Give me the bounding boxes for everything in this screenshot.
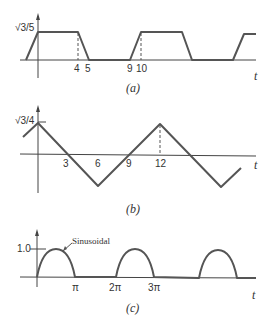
figure: √3/5 4 5 9 10 t (a) √3/4 3 6 9 12 t (b) … — [0, 0, 269, 316]
xtick-pi: π — [72, 282, 79, 293]
xtick-3pi: 3π — [148, 282, 161, 293]
ytick-sqrt3-5: √3/5 — [15, 22, 35, 33]
panel-b: √3/4 3 6 9 12 t (b) — [15, 105, 258, 216]
x-axis-label: t — [252, 288, 256, 302]
xtick-6: 6 — [95, 158, 101, 169]
x-axis — [20, 154, 256, 156]
xtick-12: 12 — [155, 158, 167, 169]
xtick-9: 9 — [126, 158, 132, 169]
caption-c: (c) — [126, 301, 139, 315]
xtick-2pi: 2π — [109, 282, 122, 293]
y-axis-arrow-icon — [35, 229, 39, 236]
rectified-sine-waveform — [37, 249, 256, 278]
x-axis-label: t — [254, 158, 258, 172]
xtick-3: 3 — [63, 158, 69, 169]
ytick-sqrt3-4: √3/4 — [15, 115, 35, 126]
ytick-1.0: 1.0 — [17, 243, 31, 254]
xtick-5: 5 — [85, 63, 91, 74]
annotation-sinusoidal: Sinusoidal — [72, 236, 111, 246]
caption-b: (b) — [126, 202, 140, 216]
panel-a: √3/5 4 5 9 10 t (a) — [15, 13, 258, 95]
x-axis-label: t — [254, 69, 258, 83]
y-axis-arrow-icon — [36, 105, 40, 112]
y-axis-arrow-icon — [36, 13, 40, 20]
caption-a: (a) — [126, 81, 140, 95]
panel-c: Sinusoidal 1.0 π 2π 3π t (c) — [17, 229, 256, 315]
xtick-9: 9 — [127, 63, 133, 74]
xtick-10: 10 — [136, 63, 148, 74]
annotation-arrow-icon — [63, 246, 67, 251]
xtick-4: 4 — [74, 63, 80, 74]
x-axis — [20, 277, 256, 278]
